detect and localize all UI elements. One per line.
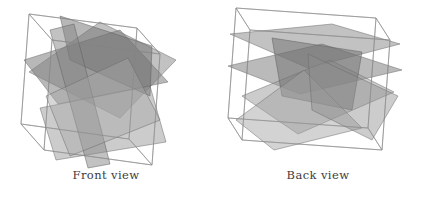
front-view-3d-plot: [0, 0, 212, 170]
panel-front-view: Front view: [0, 0, 212, 201]
back-view-caption: Back view: [212, 168, 424, 182]
figure-container: Front view: [0, 0, 424, 201]
back-view-3d-plot: [212, 0, 424, 170]
panel-back-view: Back view: [212, 0, 424, 201]
front-view-caption: Front view: [0, 168, 212, 182]
back-plane-group: [228, 24, 402, 150]
